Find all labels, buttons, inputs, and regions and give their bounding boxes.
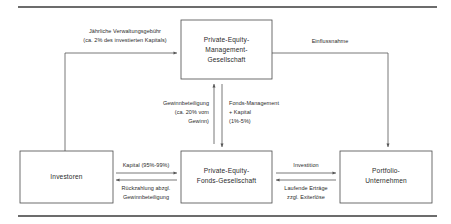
edge-verwaltungsgebuehr-line [65, 53, 177, 151]
edge-einflussnahme-line [272, 53, 388, 147]
diagram-canvas: Private-Equity- Management- Gesellschaft… [0, 0, 451, 224]
edge-rueckzahlung-label-2: Gewinnbeteiligung [123, 194, 169, 200]
edge-rueckzahlung-label-1: Rückzahlung abzgl. [122, 185, 171, 191]
edge-gewinnbeteiligung-label-3: Gewinn) [188, 118, 209, 124]
node-management-label-1: Private-Equity- [204, 36, 250, 44]
edge-fondsmanagement-label-3: (1%-5%) [229, 118, 251, 124]
node-management-label-2: Management- [205, 46, 247, 54]
edge-verwaltungsgebuehr-label-2: (ca. 2% des investierten Kapitals) [83, 37, 166, 43]
edge-einflussnahme-label-1: Einflussnahme [312, 38, 349, 44]
edge-verwaltungsgebuehr-label-1: Jährliche Verwaltungsgebühr [89, 28, 161, 34]
diagram-root: Private-Equity- Management- Gesellschaft… [0, 0, 451, 224]
edge-fondsmanagement-label-2: + Kapital [229, 109, 251, 115]
edge-ertraege-label-2: zzgl. Exiterlöse [287, 194, 325, 200]
node-portfolio-label-2: Unternehmen [365, 177, 407, 184]
node-fonds-label-1: Private-Equity- [204, 167, 250, 175]
edge-ertraege-label-1: Laufende Erträge [284, 185, 327, 191]
node-fonds-label-2: Fonds-Gesellschaft [197, 177, 257, 184]
edge-gewinnbeteiligung-label-1: Gewinnbeteiligung [163, 100, 209, 106]
node-investoren-label-1: Investoren [50, 173, 82, 180]
node-portfolio-label-1: Portfolio- [372, 167, 400, 174]
edge-investition-label-1: Investition [293, 162, 318, 168]
edge-gewinnbeteiligung-label-2: (ca. 20% vom [175, 109, 210, 115]
edge-fondsmanagement-label-1: Fonds-Management [229, 100, 279, 106]
node-management-label-3: Gesellschaft [207, 56, 245, 63]
edge-kapital-label-1: Kapital (95%-99%) [123, 162, 170, 168]
